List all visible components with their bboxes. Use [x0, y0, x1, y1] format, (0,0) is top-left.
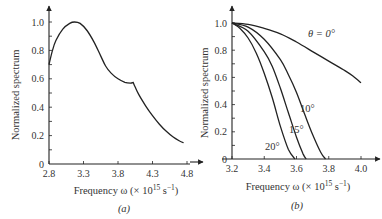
figure-canvas: 00.20.40.60.81.0 2.83.33.84.34.8 Normali… [0, 0, 382, 219]
panel-b-y-axis-title: Normalized spectrum [199, 48, 210, 139]
panel-a-spectrum-curve [49, 22, 184, 143]
panel-b-x-tick-label: 3.8 [323, 163, 336, 174]
panel-b-curve-15-deg [232, 23, 306, 159]
panel-b-y-tick-label: 0.4 [215, 99, 228, 110]
panel-b-axes: 00.20.40.60.81.0 3.23.43.63.84.0 [190, 6, 380, 174]
panel-a-y-tick-label: 1.0 [32, 17, 45, 28]
curve-label-15-deg: 15° [289, 124, 304, 135]
panel-a: 00.20.40.60.81.0 2.83.33.84.34.8 Normali… [10, 6, 193, 215]
panel-a-x-tick-label: 4.8 [181, 168, 194, 179]
curve-label-20-deg: 20° [265, 141, 280, 152]
panel-a-x-axis-title: Frequency ω (× 1015 s−1) [74, 183, 179, 197]
panel-a-y-tick-label: 0.4 [32, 102, 45, 113]
panel-b-y-tick-label: 0.8 [215, 45, 228, 56]
panel-b-x-tick-label: 3.6 [290, 163, 303, 174]
panel-b-curves [232, 23, 361, 159]
panel-a-y-tick-label: 0.6 [32, 73, 45, 84]
panel-a-x-tick-label: 4.3 [146, 168, 159, 179]
panel-a-label: (a) [118, 203, 131, 215]
panel-b-x-tick-label: 3.4 [258, 163, 271, 174]
panel-a-x-tick-label: 3.8 [112, 168, 125, 179]
panel-a-y-tick-label: 0.2 [32, 130, 45, 141]
curve-label-10-deg: 10° [300, 103, 315, 114]
panel-b: 00.20.40.60.81.0 3.23.43.63.84.0 θ = 0° … [190, 6, 380, 212]
curve-label-theta-0: θ = 0° [308, 28, 336, 39]
panel-b-y-tick-label: 1.0 [215, 18, 228, 29]
panel-b-x-tick-label: 3.2 [226, 163, 239, 174]
panel-b-x-tick-label: 4.0 [355, 163, 368, 174]
panel-a-x-tick-label: 2.8 [43, 168, 56, 179]
panel-b-y-tick-label: 0.2 [215, 126, 228, 137]
panel-b-y-tick-label: 0.6 [215, 72, 228, 83]
panel-a-axes: 00.20.40.60.81.0 2.83.33.84.34.8 [32, 6, 194, 179]
panel-b-x-axis-title: Frequency ω (× 1015 s−1) [246, 179, 351, 193]
panel-b-label: (b) [291, 200, 304, 212]
panel-b-curve-theta-0 [232, 23, 361, 83]
panel-b-curve-10-deg [232, 23, 326, 159]
panel-a-y-tick-label: 0.8 [32, 45, 45, 56]
panel-a-x-tick-label: 3.3 [77, 168, 90, 179]
panel-a-y-axis-title: Normalized spectrum [10, 50, 21, 141]
panel-b-curve-20-deg [232, 23, 295, 159]
